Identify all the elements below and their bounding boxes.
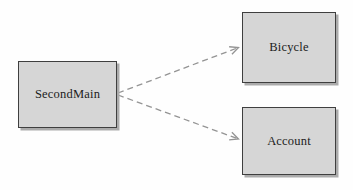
node-account: Account (242, 107, 336, 175)
node-secondmain-label: SecondMain (35, 87, 100, 102)
node-bicycle: Bicycle (242, 12, 336, 83)
node-account-label: Account (267, 134, 311, 149)
dependency-arrow-secondmain-to-bicycle (118, 48, 239, 94)
node-bicycle-label: Bicycle (269, 40, 309, 55)
dependency-arrow-secondmain-to-account (118, 95, 239, 139)
diagram-canvas: SecondMain Bicycle Account (0, 0, 353, 190)
node-secondmain: SecondMain (18, 61, 117, 128)
